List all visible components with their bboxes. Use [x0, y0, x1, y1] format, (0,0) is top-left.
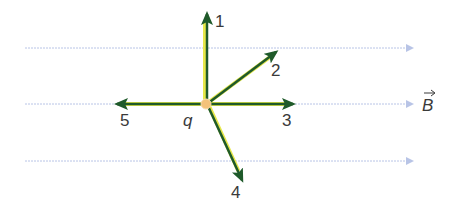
vector-highlights	[124, 22, 286, 170]
charge-label: q	[183, 111, 193, 130]
vector-3-label: 3	[282, 111, 291, 130]
field-label-group: B	[422, 90, 435, 115]
vector-4-arrow	[207, 104, 242, 180]
vector-5-label: 5	[120, 111, 129, 130]
field-label: B	[422, 96, 433, 115]
magnetic-field-diagram: 1 2 3 4 5 q B	[0, 0, 453, 203]
vector-4-label: 4	[231, 183, 240, 202]
vector-2-label: 2	[271, 61, 280, 80]
diagram-canvas: 1 2 3 4 5 q B	[0, 0, 453, 203]
vector-1-label: 1	[215, 12, 224, 31]
vector-2-arrow	[207, 52, 276, 104]
charge-dot	[201, 99, 211, 109]
